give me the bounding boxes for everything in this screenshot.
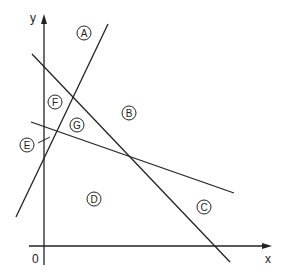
svg-text:E: E [24,140,31,151]
line-falling-steep [32,54,230,262]
y-axis-label: y [30,11,36,25]
svg-text:A: A [81,28,88,39]
region-e-marker: E [20,138,34,152]
x-axis-label-visible: x [265,252,271,266]
line-falling-shallow [31,122,234,193]
svg-text:B: B [126,108,133,119]
svg-text:D: D [90,194,97,205]
line-rising [16,24,108,217]
region-diagram: y x 0 A B C D E F G x [0,0,285,278]
svg-text:G: G [73,120,81,131]
x-axis-arrow-icon [262,243,272,249]
origin-label: 0 [32,252,39,266]
region-d-marker: D [87,192,101,206]
region-a-marker: A [77,26,91,40]
y-axis-arrow-icon [41,14,47,24]
svg-text:F: F [52,97,58,108]
region-g-marker: G [70,118,84,132]
region-b-marker: B [122,106,136,120]
region-c-marker: C [197,200,211,214]
region-f-marker: F [48,95,62,109]
svg-text:C: C [200,202,207,213]
